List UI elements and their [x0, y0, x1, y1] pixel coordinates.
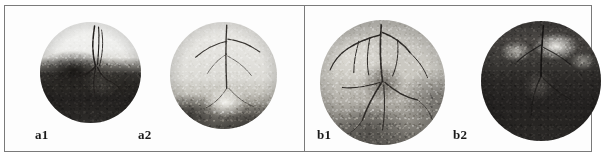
fundus-image-a2: [170, 22, 277, 129]
fundus-image-b1: [320, 20, 445, 145]
panel-label-b1: b1: [317, 128, 331, 141]
fundus-vignette-a1: [40, 22, 141, 123]
panel-label-a1: a1: [35, 128, 48, 141]
fundus-image-a1: [40, 22, 141, 123]
panel-label-a2: a2: [138, 128, 151, 141]
fundus-panel-b2[interactable]: b2: [453, 6, 589, 151]
fundus-panel-a2[interactable]: a2: [138, 6, 278, 151]
figure-root: a1 a2: [0, 0, 606, 161]
fundus-panel-a1[interactable]: a1: [35, 6, 145, 151]
panel-group-b: b1 b2: [305, 6, 592, 151]
fundus-image-b2: [481, 21, 601, 141]
fundus-vignette-b1: [320, 20, 445, 145]
panel-label-b2: b2: [453, 128, 467, 141]
panel-group-a: a1 a2: [5, 6, 304, 151]
fundus-vignette-b2: [481, 21, 601, 141]
fundus-vignette-a2: [170, 22, 277, 129]
fundus-panel-b1[interactable]: b1: [317, 6, 457, 151]
